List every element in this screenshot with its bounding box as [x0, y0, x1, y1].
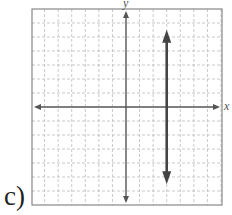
problem-label: c): [4, 183, 25, 210]
x-axis-right-arrow-icon: [213, 104, 220, 110]
line-down-arrow-icon: [162, 171, 171, 184]
coordinate-plane: [0, 0, 232, 215]
y-axis-down-arrow-icon: [123, 196, 129, 203]
x-axis-label: x: [224, 100, 229, 112]
line-up-arrow-icon: [162, 30, 171, 43]
y-axis-label: y: [123, 0, 128, 9]
x-axis-left-arrow-icon: [34, 104, 41, 110]
y-axis-up-arrow-icon: [123, 11, 129, 18]
